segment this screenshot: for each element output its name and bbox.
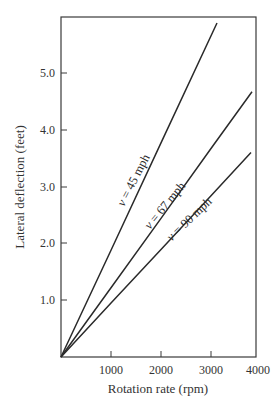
x-tick-label: 4000 [246,363,270,377]
y-tick-label: 1.0 [40,293,55,307]
y-axis-label: Lateral deflection (feet) [12,125,27,248]
x-tick-label: 1000 [99,363,123,377]
x-axis-label: Rotation rate (rpm) [108,381,208,396]
x-tick-label: 3000 [199,363,223,377]
x-axis: 1000 2000 3000 4000 Rotation rate (rpm) [99,351,270,396]
y-tick-label: 2.0 [40,236,55,250]
y-tick-label: 3.0 [40,180,55,194]
y-tick-label: 4.0 [40,123,55,137]
y-tick-label: 5.0 [40,66,55,80]
x-tick-label: 2000 [149,363,173,377]
plot-frame [61,17,256,357]
series-layer [61,23,252,357]
lateral-deflection-chart: 1000 2000 3000 4000 Rotation rate (rpm) … [0,0,280,408]
series-line-2 [61,153,251,358]
y-axis: 1.0 2.0 3.0 4.0 5.0 Lateral deflection (… [12,66,67,307]
series-line-0 [61,23,217,357]
